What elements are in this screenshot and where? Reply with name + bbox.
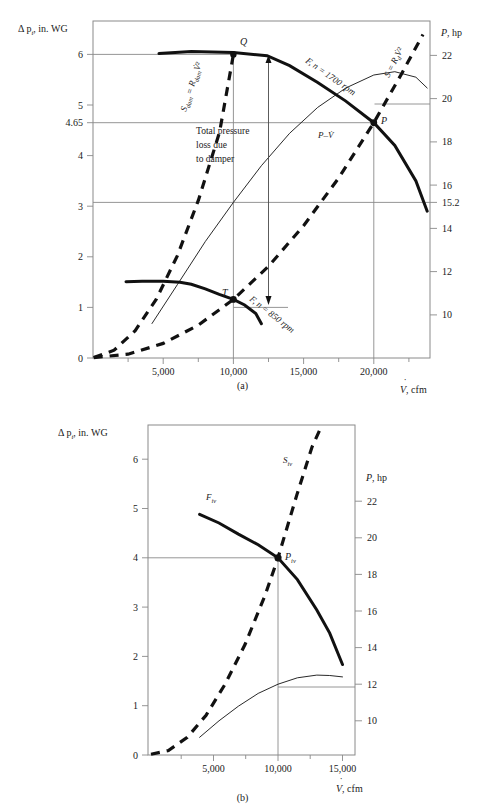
figure-fan-system-curves: 0 1 2 3 4 4.65 5 6 Δ pt, in. WG xyxy=(0,0,485,812)
curve-label-system-b: Siv xyxy=(283,455,292,467)
point-label-piv: Piv xyxy=(284,551,296,564)
x-axis-ticks-a: 5,000 10,000 15,000 20,000 xyxy=(128,358,409,377)
y2-tick-label-b-20: 20 xyxy=(367,532,377,543)
annotation-line-1: Total pressure xyxy=(196,126,249,136)
y-axis-title-a: Δ pt, in. WG xyxy=(18,23,68,37)
y-tick-label-a-5: 5 xyxy=(78,100,83,111)
y-axis-ticks-b: 0 1 2 3 4 5 6 xyxy=(133,454,148,761)
y2-tick-label-a-22: 22 xyxy=(442,50,452,61)
panel-a: 0 1 2 3 4 4.65 5 6 Δ pt, in. WG xyxy=(0,0,485,400)
y-tick-label-b-0: 0 xyxy=(133,750,138,761)
y2-tick-label-b-12: 12 xyxy=(367,679,377,690)
curve-system-b xyxy=(151,430,320,755)
y-tick-label-b-1: 1 xyxy=(133,700,138,711)
y-axis-title-b: Δ pt, in. WG xyxy=(58,427,108,441)
panel-b-chart: 0 1 2 3 4 5 6 Δ pt, in. WG 10 12 14 xyxy=(0,400,485,812)
y-tick-label-a-2: 2 xyxy=(78,251,83,262)
curve-fan-b xyxy=(200,514,343,664)
y2-axis-ticks-b: 10 12 14 16 18 20 22 xyxy=(355,496,377,727)
curve-label-duct-system: S = RdV̇² xyxy=(382,46,407,80)
y2-axis-ticks-a: 10 12 14 15.2 16 18 20 22 xyxy=(430,50,460,321)
y-tick-label-b-3: 3 xyxy=(133,602,138,613)
y-tick-label-a-6: 6 xyxy=(78,49,83,60)
y-tick-label-a-4: 4 xyxy=(78,150,83,161)
x-tick-label-b-10000: 10,000 xyxy=(264,763,292,774)
y2-tick-label-b-18: 18 xyxy=(367,569,377,580)
x-tick-label-a-5000: 5,000 xyxy=(152,366,175,377)
annotation-line-3: to damper xyxy=(196,154,235,164)
y-tick-label-b-2: 2 xyxy=(133,651,138,662)
y2-axis-title-b: P, hp xyxy=(365,472,387,483)
x-tick-label-a-10000: 10,000 xyxy=(220,366,248,377)
x-tick-label-a-15000: 15,000 xyxy=(290,366,318,377)
annotation-damper-loss: Total pressure loss due to damper xyxy=(196,126,249,164)
annotation-line-2: loss due xyxy=(196,140,227,150)
y2-tick-label-a-12: 12 xyxy=(442,266,452,277)
y2-tick-label-b-14: 14 xyxy=(367,642,377,653)
curve-label-damper-system: Sdam = RdamV̇² xyxy=(178,61,205,114)
plot-frame-b xyxy=(148,425,355,755)
y2-tick-label-b-16: 16 xyxy=(367,606,377,617)
curve-power-b xyxy=(200,675,343,737)
y-axis-ticks-a: 0 1 2 3 4 4.65 5 6 xyxy=(66,49,94,364)
y-tick-label-a-0: 0 xyxy=(78,353,83,364)
panel-b: 0 1 2 3 4 5 6 Δ pt, in. WG 10 12 14 xyxy=(0,400,485,812)
point-label-p: P xyxy=(380,115,387,126)
y-tick-label-b-5: 5 xyxy=(133,503,138,514)
point-marker-t xyxy=(230,296,237,303)
y2-tick-label-b-22: 22 xyxy=(367,496,377,507)
y2-tick-label-a-18: 18 xyxy=(442,136,452,147)
point-marker-q xyxy=(230,51,236,57)
y2-tick-label-a-16: 16 xyxy=(442,180,452,191)
x-axis-title-dot-b: ˙ xyxy=(340,776,343,787)
x-tick-label-a-20000: 20,000 xyxy=(360,366,388,377)
point-marker-p xyxy=(370,119,377,126)
x-tick-label-b-5000: 5,000 xyxy=(202,763,225,774)
curve-damper-system-a xyxy=(94,55,234,358)
x-tick-label-b-15000: 15,000 xyxy=(329,763,357,774)
y2-tick-label-a-152: 15.2 xyxy=(442,197,460,208)
panel-b-caption: (b) xyxy=(0,792,485,803)
y-tick-label-a-1: 1 xyxy=(78,302,83,313)
y2-tick-label-b-10: 10 xyxy=(367,715,377,726)
y-tick-label-b-6: 6 xyxy=(133,454,138,465)
y2-tick-label-a-10: 10 xyxy=(442,309,452,320)
curve-label-power-a: P–V̇ xyxy=(317,130,335,140)
x-axis-ticks-b: 5,000 10,000 15,000 xyxy=(181,755,356,774)
panel-a-caption: (a) xyxy=(0,380,485,391)
y-tick-label-a-465: 4.65 xyxy=(66,117,84,128)
curve-fan-850rpm-a xyxy=(126,281,261,324)
y2-axis-title-a: P, hp xyxy=(440,27,462,38)
y-tick-label-a-3: 3 xyxy=(78,201,83,212)
y-tick-label-b-4: 4 xyxy=(133,552,138,563)
panel-a-chart: 0 1 2 3 4 4.65 5 6 Δ pt, in. WG xyxy=(0,0,485,400)
y2-tick-label-a-20: 20 xyxy=(442,93,452,104)
point-label-q: Q xyxy=(240,36,248,47)
y2-tick-label-a-14: 14 xyxy=(442,223,452,234)
point-marker-piv xyxy=(274,554,281,561)
curve-label-fan-b: Fiv xyxy=(205,492,216,504)
